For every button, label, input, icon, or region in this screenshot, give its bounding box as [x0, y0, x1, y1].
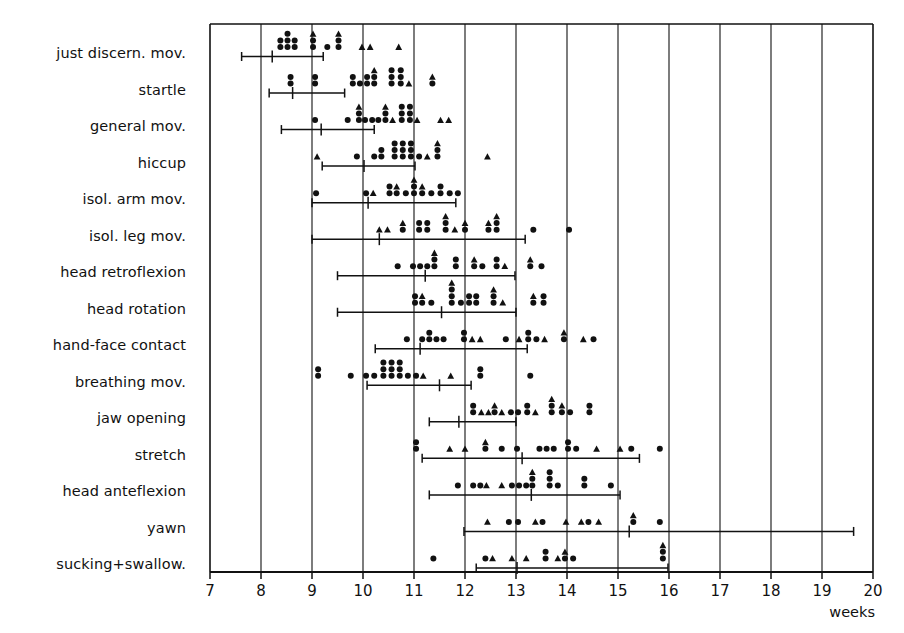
data-point-circle: [378, 147, 384, 153]
data-point-circle: [389, 74, 395, 80]
data-point-circle: [411, 190, 417, 196]
data-point-circle: [525, 330, 531, 336]
data-point-circle: [515, 519, 521, 525]
data-point-triangle: [499, 299, 506, 305]
data-point-circle: [428, 190, 434, 196]
data-point-circle: [424, 263, 430, 269]
data-point-circle: [516, 482, 522, 488]
range-bar-12: [429, 489, 620, 501]
data-point-circle: [573, 446, 579, 452]
data-point-circle: [285, 37, 291, 43]
data-point-circle: [310, 37, 316, 43]
data-point-circle: [399, 117, 405, 123]
data-point-circle: [412, 293, 418, 299]
data-point-circle: [389, 366, 395, 372]
data-point-circle: [413, 446, 419, 452]
data-point-circle: [428, 300, 434, 306]
data-point-circle: [371, 74, 377, 80]
data-point-circle: [515, 409, 521, 415]
data-point-circle: [447, 190, 453, 196]
data-point-triangle: [419, 293, 426, 299]
data-point-circle: [539, 263, 545, 269]
data-point-circle: [506, 519, 512, 525]
data-point-circle: [438, 184, 444, 190]
data-point-circle: [540, 519, 546, 525]
data-point-circle: [407, 117, 413, 123]
data-point-triangle: [359, 44, 366, 50]
x-axis-group: 7891011121314151617181920weeks: [205, 572, 882, 620]
data-point-circle: [458, 300, 464, 306]
data-point-triangle: [561, 329, 568, 335]
data-point-circle: [491, 300, 497, 306]
data-point-circle: [494, 220, 500, 226]
data-point-triangle: [548, 396, 555, 402]
x-tick-label-10: 10: [353, 582, 372, 600]
data-point-circle: [375, 117, 381, 123]
data-point-triangle: [501, 263, 508, 269]
data-point-circle: [405, 373, 411, 379]
data-point-circle: [591, 336, 597, 342]
data-point-circle: [413, 373, 419, 379]
data-point-triangle: [389, 117, 396, 123]
data-point-circle: [424, 227, 430, 233]
data-point-circle: [292, 37, 298, 43]
range-bar-8: [375, 343, 527, 355]
data-point-circle: [529, 482, 535, 488]
data-point-circle: [336, 44, 342, 50]
data-point-triangle: [442, 213, 449, 219]
data-point-circle: [389, 81, 395, 87]
data-point-triangle: [469, 336, 476, 342]
data-point-circle: [371, 373, 377, 379]
data-point-circle: [312, 81, 318, 87]
data-point-triangle: [445, 117, 452, 123]
data-point-circle: [419, 190, 425, 196]
data-point-circle: [392, 140, 398, 146]
range-bar-3: [322, 160, 415, 172]
data-point-circle: [277, 37, 283, 43]
data-point-circle: [403, 190, 409, 196]
data-point-circle: [413, 439, 419, 445]
data-point-circle: [288, 81, 294, 87]
data-point-circle: [449, 293, 455, 299]
data-point-circle: [470, 403, 476, 409]
data-point-circle: [485, 227, 491, 233]
data-point-triangle: [367, 44, 374, 50]
data-point-triangle: [559, 402, 566, 408]
data-point-circle: [292, 44, 298, 50]
data-point-triangle: [356, 103, 363, 109]
data-point-triangle: [498, 409, 505, 415]
data-point-triangle: [471, 256, 478, 262]
x-tick-label-8: 8: [256, 582, 266, 600]
data-point-circle: [565, 439, 571, 445]
data-point-triangle: [393, 183, 400, 189]
data-point-circle: [455, 482, 461, 488]
data-point-circle: [443, 227, 449, 233]
data-point-triangle: [484, 519, 491, 525]
data-point-circle: [398, 67, 404, 73]
data-point-circle: [426, 330, 432, 336]
data-point-triangle: [431, 250, 438, 256]
data-point-circle: [523, 482, 529, 488]
data-point-triangle: [371, 67, 378, 73]
data-point-circle: [470, 482, 476, 488]
data-point-circle: [371, 154, 377, 160]
data-point-triangle: [384, 226, 391, 232]
data-point-circle: [416, 220, 422, 226]
data-point-circle: [660, 555, 666, 561]
range-bar-10: [429, 416, 516, 428]
data-point-circle: [508, 409, 514, 415]
data-point-circle: [378, 154, 384, 160]
data-point-triangle: [420, 372, 427, 378]
data-point-circle: [397, 360, 403, 366]
range-bar-5: [312, 233, 525, 245]
data-point-circle: [482, 555, 488, 561]
data-point-circle: [547, 469, 553, 475]
data-point-circle: [288, 74, 294, 80]
data-point-triangle: [434, 140, 441, 146]
figure-root: { "chart_data": { "type": "scatter", "ti…: [0, 0, 904, 633]
data-point-circle: [529, 476, 535, 482]
data-point-circle: [429, 81, 435, 87]
data-point-triangle: [395, 44, 402, 50]
data-point-triangle: [376, 226, 383, 232]
data-point-circle: [477, 366, 483, 372]
